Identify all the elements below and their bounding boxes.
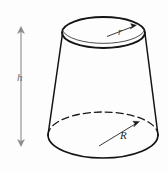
frustum-left-side [48,34,63,136]
frustum-drawing [0,0,168,172]
height-dimension-arrow [18,27,25,147]
frustum-figure: h r R [0,0,168,172]
top-radius-arrowhead [130,24,136,29]
bottom-ellipse-front-arc [48,135,158,158]
top-radius-label: r [118,27,122,37]
bottom-radius-arrowhead [133,121,140,127]
frustum-right-side [145,34,158,136]
top-ellipse-inner-rim [63,30,145,43]
height-label: h [17,72,23,83]
bottom-ellipse-back-dashed-arc [48,112,158,135]
bottom-radius-label: R [120,130,127,141]
